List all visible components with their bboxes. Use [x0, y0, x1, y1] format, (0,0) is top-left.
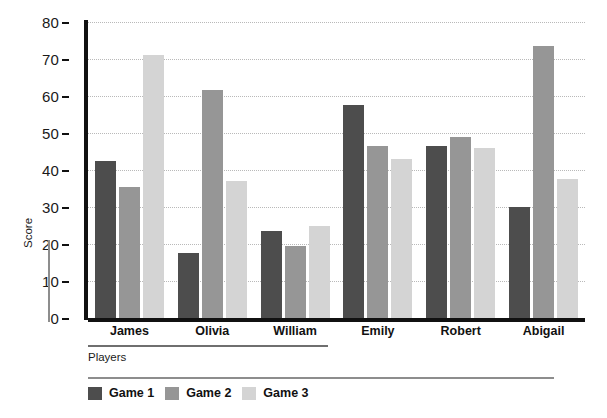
legend-swatch [88, 387, 102, 400]
y-axis-tick-label: 50 [42, 125, 59, 142]
y-axis-tick [62, 281, 69, 283]
bar [143, 55, 164, 318]
legend-swatch [165, 387, 179, 400]
legend: Game 1Game 2Game 3 [88, 386, 309, 400]
bar-group [254, 22, 337, 318]
bar [533, 46, 554, 318]
x-axis-tick-label: Olivia [171, 324, 254, 338]
y-axis-tick-label: 40 [42, 162, 59, 179]
bar-chart: 01020304050607080 Score JamesOliviaWilli… [0, 0, 607, 418]
bar [367, 146, 388, 318]
x-axis-line [88, 318, 585, 322]
bar [119, 187, 140, 318]
legend-label: Game 3 [263, 386, 308, 400]
x-axis-title-rule [88, 345, 328, 347]
bar [226, 181, 247, 318]
y-axis-tick [62, 133, 69, 135]
bar-groups [88, 22, 585, 318]
bar [391, 159, 412, 318]
legend-swatch [242, 387, 256, 400]
bar [509, 207, 530, 318]
bar [285, 246, 306, 318]
bar [450, 137, 471, 318]
bar [474, 148, 495, 318]
x-axis-tick-label: Emily [336, 324, 419, 338]
bar-group [419, 22, 502, 318]
bar-group [502, 22, 585, 318]
y-axis-tick [62, 318, 69, 320]
y-axis-ticks: 01020304050607080 [0, 0, 88, 418]
bar [95, 161, 116, 318]
legend-label: Game 1 [109, 386, 154, 400]
bar-group [336, 22, 419, 318]
x-axis-labels: JamesOliviaWilliamEmilyRobertAbigail [88, 324, 585, 338]
bar-group [171, 22, 254, 318]
x-axis-title: Players [88, 351, 126, 363]
bar [202, 90, 223, 318]
legend-rule [88, 377, 554, 379]
y-axis-tick [62, 22, 69, 24]
y-axis-tick-label: 0 [50, 310, 59, 327]
legend-item[interactable]: Game 3 [242, 386, 308, 400]
y-axis-tick [62, 244, 69, 246]
y-axis-title-rule [48, 240, 50, 322]
y-axis-title: Score [22, 218, 34, 248]
x-axis-tick-label: Robert [419, 324, 502, 338]
bar [557, 179, 578, 318]
y-axis-tick [62, 170, 69, 172]
bar [343, 105, 364, 318]
legend-item[interactable]: Game 2 [165, 386, 231, 400]
y-axis-tick [62, 96, 69, 98]
x-axis-tick-label: William [254, 324, 337, 338]
y-axis-tick-label: 30 [42, 199, 59, 216]
x-axis-tick-label: James [88, 324, 171, 338]
bar [426, 146, 447, 318]
legend-label: Game 2 [186, 386, 231, 400]
y-axis-tick-label: 70 [42, 51, 59, 68]
bar [261, 231, 282, 318]
y-axis-tick-label: 80 [42, 14, 59, 31]
bar-group [88, 22, 171, 318]
y-axis-tick-label: 60 [42, 88, 59, 105]
y-axis-tick-label: 10 [42, 273, 59, 290]
y-axis-tick [62, 59, 69, 61]
y-axis-tick-label: 20 [42, 236, 59, 253]
bar [309, 226, 330, 319]
y-axis-tick [62, 207, 69, 209]
x-axis-tick-label: Abigail [502, 324, 585, 338]
legend-item[interactable]: Game 1 [88, 386, 154, 400]
bar [178, 253, 199, 318]
